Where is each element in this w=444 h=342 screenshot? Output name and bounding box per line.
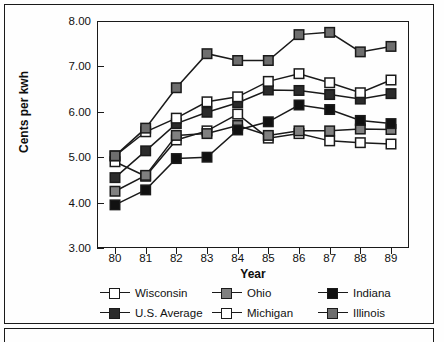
data-point-marker <box>386 139 396 149</box>
data-point-marker <box>264 131 274 141</box>
series-line <box>115 125 391 191</box>
data-point-marker <box>110 151 120 161</box>
data-point-marker <box>233 125 243 134</box>
legend-label-illinois: Illinois <box>353 307 385 319</box>
data-point-marker <box>294 126 304 135</box>
data-point-marker <box>294 69 304 79</box>
data-point-marker <box>325 126 335 135</box>
legend-marker-icon-ohio <box>212 286 242 300</box>
data-point-marker <box>141 171 151 181</box>
data-point-marker <box>172 131 182 141</box>
data-point-marker <box>294 86 304 96</box>
data-point-marker <box>141 146 151 156</box>
legend-marker-icon-indiana <box>318 286 348 300</box>
series-michigan <box>110 69 396 161</box>
data-point-marker <box>294 30 304 40</box>
legend-item-ohio[interactable]: Ohio <box>212 285 271 301</box>
data-point-marker <box>110 187 120 197</box>
data-point-marker <box>386 89 396 99</box>
data-point-marker <box>141 185 151 195</box>
data-point-marker <box>325 28 335 37</box>
data-point-marker <box>264 56 274 66</box>
legend-label-wisconsin: Wisconsin <box>135 287 187 299</box>
data-point-marker <box>172 154 182 164</box>
data-point-marker <box>172 113 182 123</box>
data-point-marker <box>325 78 335 88</box>
data-point-marker <box>110 200 120 210</box>
chart-figure: Cents per kwh 3.004.005.006.007.008.00 8… <box>0 0 444 342</box>
data-point-marker <box>202 97 212 107</box>
series-indiana <box>110 100 396 209</box>
data-point-marker <box>356 116 366 126</box>
data-point-marker <box>202 152 212 162</box>
data-point-marker <box>264 77 274 87</box>
data-point-marker <box>386 119 396 129</box>
chart-legend: Wisconsin Ohio Indiana U.S. Average Mich… <box>100 285 420 323</box>
data-point-marker <box>386 75 396 85</box>
series-illinois <box>110 28 396 161</box>
data-point-marker <box>233 109 243 119</box>
data-point-marker <box>172 83 182 93</box>
legend-item-wisconsin[interactable]: Wisconsin <box>100 285 187 301</box>
data-point-marker <box>264 117 274 127</box>
legend-label-ohio: Ohio <box>247 287 271 299</box>
legend-label-indiana: Indiana <box>353 287 391 299</box>
legend-item-us-average[interactable]: U.S. Average <box>100 305 203 321</box>
data-point-marker <box>141 123 151 133</box>
data-point-marker <box>202 129 212 139</box>
data-point-marker <box>356 88 366 98</box>
data-point-marker <box>294 100 304 110</box>
series-line <box>115 114 391 176</box>
data-point-marker <box>325 105 335 115</box>
legend-marker-icon-wisconsin <box>100 286 130 300</box>
legend-label-michigan: Michigan <box>247 307 293 319</box>
legend-marker-icon-us-average <box>100 306 130 320</box>
data-point-marker <box>356 47 366 57</box>
data-point-marker <box>110 173 120 183</box>
legend-marker-icon-michigan <box>212 306 242 320</box>
data-point-marker <box>356 138 366 148</box>
legend-item-indiana[interactable]: Indiana <box>318 285 391 301</box>
series-line <box>115 32 391 155</box>
series-ohio <box>110 121 396 196</box>
data-point-marker <box>233 56 243 66</box>
legend-item-michigan[interactable]: Michigan <box>212 305 293 321</box>
data-point-marker <box>202 49 212 59</box>
legend-item-illinois[interactable]: Illinois <box>318 305 385 321</box>
data-point-marker <box>386 42 396 52</box>
data-point-marker <box>325 136 335 146</box>
data-point-marker <box>325 90 335 100</box>
series-line <box>115 105 391 205</box>
legend-marker-icon-illinois <box>318 306 348 320</box>
data-point-marker <box>202 108 212 118</box>
data-point-marker <box>233 92 243 102</box>
legend-label-us-average: U.S. Average <box>135 307 203 319</box>
